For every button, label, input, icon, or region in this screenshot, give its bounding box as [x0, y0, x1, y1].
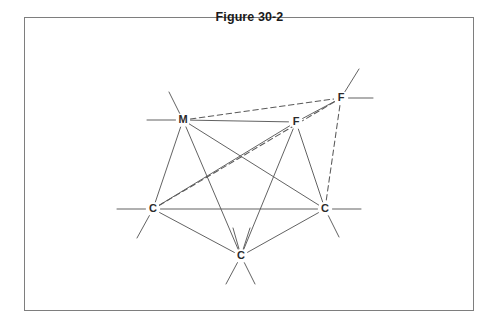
bond-m-f — [190, 120, 288, 122]
bond-stub-m — [169, 92, 180, 113]
bond-stub-c — [244, 263, 255, 284]
bond-f-c — [298, 129, 322, 202]
atom-label-m1: M — [178, 113, 187, 125]
bond-m-c — [189, 124, 318, 205]
bond-stub-c — [328, 216, 339, 237]
bond-m-f — [190, 99, 333, 119]
atom-label-c_b: C — [237, 249, 245, 261]
bond-c-c — [248, 213, 319, 253]
bond-f-c — [326, 105, 340, 201]
bond-stub-c — [226, 263, 237, 284]
bond-m-c — [155, 127, 180, 202]
atom-label-c_r: C — [321, 202, 329, 214]
bond-stub-f — [345, 69, 359, 92]
atom-label-f_ur: F — [338, 91, 345, 103]
bond-stub-c — [243, 228, 250, 249]
bond-stub-c — [137, 216, 149, 238]
bond-f-f — [303, 102, 335, 119]
molecular-structure-diagram: MFFCCC — [0, 0, 499, 329]
atom-label-c_l: C — [149, 202, 157, 214]
bond-c-c — [160, 213, 235, 253]
atom-label-f_c: F — [293, 115, 300, 127]
